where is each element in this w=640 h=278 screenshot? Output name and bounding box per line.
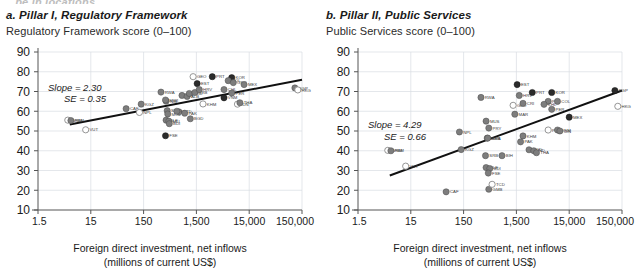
y-axis-tick-label: 60 xyxy=(337,105,351,119)
scatter-point xyxy=(478,94,484,100)
scatter-point xyxy=(499,153,505,159)
x-axis-tick-label: 15,000 xyxy=(233,215,265,227)
scatter-point-label: CRI xyxy=(527,101,534,106)
scatter-point xyxy=(194,81,200,87)
y-axis-tick-label: 50 xyxy=(17,124,31,138)
scatter-point xyxy=(566,114,572,120)
scatter-point xyxy=(557,128,563,134)
scatter-point xyxy=(237,100,243,106)
scatter-point xyxy=(443,189,449,195)
scatter-point-label: MAR xyxy=(519,112,529,117)
scatter-point xyxy=(529,89,535,95)
scatter-point xyxy=(162,97,168,103)
scatter-point xyxy=(209,74,215,80)
y-axis-tick-label: 50 xyxy=(337,124,351,138)
scatter-point xyxy=(615,103,621,109)
scatter-point-label: HRV xyxy=(203,87,212,92)
y-axis-tick-label: 70 xyxy=(17,85,31,99)
scatter-point xyxy=(221,95,227,101)
scatter-point xyxy=(174,108,180,114)
scatter-point xyxy=(186,90,192,96)
panel-b-xaxis-title-line2: (millions of current US$) xyxy=(320,256,640,268)
y-axis-tick-label: 90 xyxy=(17,45,31,59)
scatter-point xyxy=(165,111,171,117)
scatter-point xyxy=(549,106,555,112)
scatter-point xyxy=(483,118,489,124)
scatter-point xyxy=(166,121,172,127)
scatter-point-label: FSE xyxy=(169,133,177,138)
scatter-point xyxy=(83,127,89,133)
scatter-point xyxy=(520,133,526,139)
slope-annotation: Slope = 2.30 xyxy=(48,82,102,93)
scatter-point xyxy=(68,117,74,123)
panel-b-xaxis-title-line1: Foreign direct investment, net inflows xyxy=(320,242,640,254)
scatter-point-label: THA xyxy=(244,100,253,105)
y-axis-tick-label: 80 xyxy=(337,65,351,79)
x-axis-tick-label: 1,500 xyxy=(503,215,529,227)
scatter-point-label: IDN xyxy=(564,129,571,134)
panel-a-svg: 1020304050607080901.5151501,50015,000150… xyxy=(0,44,320,240)
scatter-point-label: VUT xyxy=(409,164,418,169)
scatter-point-label: FSM xyxy=(395,148,404,153)
scatter-point-label: THA xyxy=(540,150,549,155)
scatter-point-label: BIH xyxy=(506,153,513,158)
y-axis-tick-label: 90 xyxy=(337,45,351,59)
scatter-point-label: HKG xyxy=(622,104,632,109)
panel-b-subtitle: Public Services score (0–100) xyxy=(326,25,475,37)
x-axis-tick-label: 150 xyxy=(135,215,153,227)
scatter-point xyxy=(516,92,522,98)
x-axis-tick-label: 1,500 xyxy=(183,215,209,227)
scatter-point-label: VNM xyxy=(228,95,238,100)
scatter-point-label: COL xyxy=(561,99,570,104)
panel-a-xaxis-title-line2: (millions of current US$) xyxy=(0,256,320,268)
scatter-point-label: MUS xyxy=(490,119,500,124)
scatter-point-label: MEX xyxy=(573,115,582,120)
slope-annotation: Slope = 4.29 xyxy=(368,119,422,130)
y-axis-tick-label: 40 xyxy=(337,144,351,158)
x-axis-tick-label: 15,000 xyxy=(553,215,585,227)
scatter-point-label: PRT xyxy=(536,90,545,95)
x-axis-tick-label: 150 xyxy=(455,215,473,227)
scatter-point-label: BDI xyxy=(173,121,180,126)
scatter-point-label: EST xyxy=(201,81,210,86)
scatter-point xyxy=(221,86,227,92)
scatter-point xyxy=(162,133,168,139)
scatter-point xyxy=(514,81,520,87)
standard-error-annotation: SE = 0.35 xyxy=(64,93,107,104)
y-axis-tick-label: 30 xyxy=(337,164,351,178)
panel-a-plot: 1020304050607080901.5151501,50015,000150… xyxy=(0,44,320,230)
scatter-point-label: TCD xyxy=(496,182,505,187)
scatter-point-label: NPL xyxy=(143,110,152,115)
scatter-point xyxy=(485,135,491,141)
scatter-point xyxy=(388,148,394,154)
scatter-point xyxy=(458,146,464,152)
scatter-point-label: KHM xyxy=(527,134,537,139)
scatter-point xyxy=(545,127,551,133)
scatter-point-label: PRT xyxy=(216,74,225,79)
scatter-point xyxy=(182,110,188,116)
scatter-point xyxy=(200,101,206,107)
scatter-point xyxy=(486,125,492,131)
scatter-point xyxy=(489,181,495,187)
x-axis-tick-label: 15 xyxy=(405,215,417,227)
y-axis-tick-label: 20 xyxy=(337,184,351,198)
x-axis-tick-label: 150,000 xyxy=(276,215,314,227)
scatter-point xyxy=(512,111,518,117)
x-axis-tick-label: 150,000 xyxy=(596,215,634,227)
panel-a-subtitle: Regulatory Framework score (0–100) xyxy=(6,25,192,37)
scatter-point-label: PER xyxy=(556,107,565,112)
scatter-point-label: MEX xyxy=(248,82,257,87)
scatter-point xyxy=(241,81,247,87)
scatter-point-label: EST xyxy=(521,82,530,87)
scatter-point-label: RWA xyxy=(485,95,495,100)
scatter-point-label: FSM xyxy=(75,118,84,123)
x-axis-tick-label: 1.5 xyxy=(352,215,367,227)
x-axis-tick-label: 15 xyxy=(85,215,97,227)
scatter-point xyxy=(136,109,142,115)
scatter-point xyxy=(123,106,129,112)
scatter-point xyxy=(456,129,462,135)
scatter-point xyxy=(520,100,526,106)
scatter-point xyxy=(190,74,196,80)
scatter-point-label: MWI xyxy=(169,98,178,103)
y-axis-tick-label: 10 xyxy=(17,203,31,217)
